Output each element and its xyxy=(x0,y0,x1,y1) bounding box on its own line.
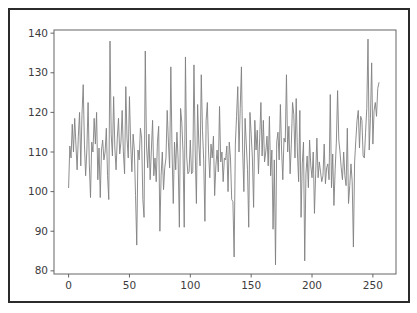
matplotlib-figure: 8090100110120130140050100150200250 xyxy=(10,10,408,301)
plot-canvas xyxy=(10,10,408,301)
x-tick-label: 200 xyxy=(292,280,332,291)
x-tick-label: 50 xyxy=(109,280,149,291)
y-tick-label: 120 xyxy=(28,107,48,118)
x-tick-label: 250 xyxy=(353,280,393,291)
y-tick-label: 100 xyxy=(28,186,48,197)
x-tick-label: 100 xyxy=(170,280,210,291)
y-tick-label: 140 xyxy=(28,28,48,39)
y-tick-label: 130 xyxy=(28,67,48,78)
y-tick-label: 110 xyxy=(28,147,48,158)
y-tick-label: 80 xyxy=(35,265,48,276)
x-tick-label: 0 xyxy=(49,280,89,291)
figure-frame: 8090100110120130140050100150200250 xyxy=(8,8,410,303)
x-tick-label: 150 xyxy=(231,280,271,291)
y-tick-label: 90 xyxy=(35,226,48,237)
